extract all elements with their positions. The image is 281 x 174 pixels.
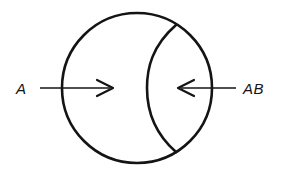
label-right-ab: AB xyxy=(242,80,264,97)
crescent-arc-shape xyxy=(147,25,176,152)
arrow-right-icon xyxy=(40,80,113,96)
diagram-canvas: A AB xyxy=(0,0,281,174)
arrow-left-icon xyxy=(178,80,236,96)
venn-style-circle-diagram: A AB xyxy=(0,0,281,174)
label-left-a: A xyxy=(15,80,26,97)
